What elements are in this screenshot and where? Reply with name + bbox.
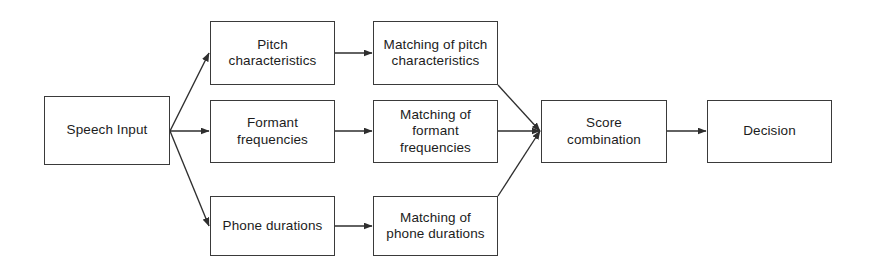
node-score-combination-label: Score combination — [546, 115, 662, 148]
node-matching-phone-durations-label: Matching of phone durations — [378, 210, 493, 243]
flowchart-canvas: Speech Input Pitch characteristics Forma… — [0, 0, 875, 272]
edge-speech-input-to-pitch — [170, 53, 209, 131]
node-speech-input-label: Speech Input — [49, 122, 165, 138]
node-pitch-characteristics-label: Pitch characteristics — [215, 37, 330, 70]
node-pitch-characteristics[interactable]: Pitch characteristics — [210, 21, 335, 85]
edge-match-pitch-to-score — [498, 85, 540, 131]
node-decision[interactable]: Decision — [707, 100, 832, 163]
node-score-combination[interactable]: Score combination — [541, 100, 667, 163]
node-matching-pitch-characteristics-label: Matching of pitch characteristics — [378, 37, 493, 70]
node-matching-pitch-characteristics[interactable]: Matching of pitch characteristics — [373, 21, 498, 85]
node-phone-durations[interactable]: Phone durations — [210, 196, 335, 256]
node-phone-durations-label: Phone durations — [215, 218, 330, 234]
node-speech-input[interactable]: Speech Input — [44, 96, 170, 165]
node-formant-frequencies-label: Formant frequencies — [215, 115, 330, 148]
edge-speech-input-to-phone — [170, 131, 209, 226]
node-formant-frequencies[interactable]: Formant frequencies — [210, 100, 335, 163]
edge-match-phone-to-score — [498, 131, 540, 196]
node-matching-phone-durations[interactable]: Matching of phone durations — [373, 196, 498, 256]
node-matching-formant-frequencies-label: Matching of formant frequencies — [378, 107, 493, 156]
node-decision-label: Decision — [712, 123, 827, 139]
node-matching-formant-frequencies[interactable]: Matching of formant frequencies — [373, 100, 498, 163]
